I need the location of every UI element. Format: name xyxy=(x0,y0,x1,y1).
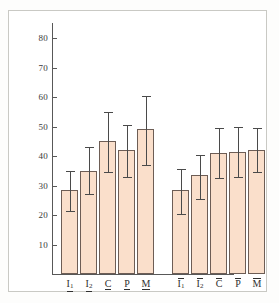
y-tick-label: 30 xyxy=(18,181,48,192)
error-bar-cap-lower xyxy=(123,177,132,178)
y-tick-mark xyxy=(52,156,57,157)
y-tick-label-text: 20 xyxy=(22,210,48,220)
x-axis-label-text: M xyxy=(253,278,262,289)
y-tick-label-text: 80 xyxy=(22,33,48,43)
y-tick-mark xyxy=(52,245,57,246)
x-axis-label-text: P xyxy=(235,278,241,289)
y-axis-line xyxy=(52,23,53,274)
error-bar-cap-upper xyxy=(66,171,75,172)
x-axis-label: M xyxy=(246,278,268,289)
error-bar-cap-upper xyxy=(253,128,262,129)
x-axis-label-text: P xyxy=(124,278,130,290)
x-axis-label-text: I1 xyxy=(178,278,185,290)
y-tick-mark xyxy=(52,68,57,69)
x-axis-label-subscript: 2 xyxy=(89,282,93,290)
error-bar-cap-upper xyxy=(142,96,151,97)
error-bar-line xyxy=(89,147,90,194)
error-bar-cap-upper xyxy=(85,147,94,148)
x-axis-label-subscript: 1 xyxy=(70,282,74,290)
error-bar-cap-upper xyxy=(215,128,224,129)
x-axis-label-text: C xyxy=(105,278,112,290)
error-bar-cap-upper xyxy=(104,112,113,113)
y-tick-label: 50 xyxy=(18,122,48,133)
error-bar-line xyxy=(219,128,220,178)
y-tick-label-text: 30 xyxy=(22,181,48,191)
figure-canvas: 1020304050607080 I1I2CPMI1I2CPM xyxy=(0,0,279,303)
y-tick-label-text: 50 xyxy=(22,122,48,132)
error-bar-line xyxy=(108,112,109,172)
x-axis-label-text: I2 xyxy=(197,278,204,290)
y-tick-mark xyxy=(52,127,57,128)
error-bar-cap-lower xyxy=(215,178,224,179)
x-axis-label-text: C xyxy=(216,278,223,289)
error-bar-cap-lower xyxy=(85,194,94,195)
error-bar-cap-upper xyxy=(196,155,205,156)
error-bar-line xyxy=(238,127,239,177)
error-bar-line xyxy=(70,171,71,211)
error-bar-line xyxy=(181,169,182,213)
error-bar-line xyxy=(127,125,128,177)
x-axis-label-text: M xyxy=(142,278,151,290)
error-bar-line xyxy=(257,128,258,172)
y-tick-label: 80 xyxy=(18,33,48,44)
error-bar-cap-lower xyxy=(253,172,262,173)
error-bar-line xyxy=(146,96,147,165)
y-tick-mark xyxy=(52,215,57,216)
y-tick-label: 20 xyxy=(18,210,48,221)
error-bar-line xyxy=(200,155,201,199)
error-bar-cap-lower xyxy=(104,172,113,173)
error-bar-cap-upper xyxy=(234,127,243,128)
x-axis-label-subscript: 2 xyxy=(200,282,204,290)
x-axis-label-text: I1 xyxy=(67,278,74,292)
plot-area: 1020304050607080 I1I2CPMI1I2CPM xyxy=(0,0,279,303)
x-axis-line xyxy=(52,274,234,275)
error-bar-cap-lower xyxy=(196,199,205,200)
error-bar-cap-lower xyxy=(142,165,151,166)
x-axis-label: M xyxy=(135,278,157,290)
error-bar-cap-lower xyxy=(234,177,243,178)
y-tick-label: 40 xyxy=(18,151,48,162)
y-tick-label-text: 70 xyxy=(22,63,48,73)
y-tick-label-text: 10 xyxy=(22,240,48,250)
error-bar-cap-lower xyxy=(66,211,75,212)
error-bar-cap-upper xyxy=(123,125,132,126)
y-tick-mark xyxy=(52,186,57,187)
error-bar-cap-lower xyxy=(177,214,186,215)
y-tick-mark xyxy=(52,97,57,98)
error-bar-cap-upper xyxy=(177,169,186,170)
x-axis-label-text: I2 xyxy=(86,278,93,292)
y-tick-label: 70 xyxy=(18,63,48,74)
x-axis-label-subscript: 1 xyxy=(181,282,185,290)
y-tick-label-text: 40 xyxy=(22,151,48,161)
y-tick-label-text: 60 xyxy=(22,92,48,102)
y-tick-label: 10 xyxy=(18,240,48,251)
y-tick-label: 60 xyxy=(18,92,48,103)
y-tick-mark xyxy=(52,38,57,39)
